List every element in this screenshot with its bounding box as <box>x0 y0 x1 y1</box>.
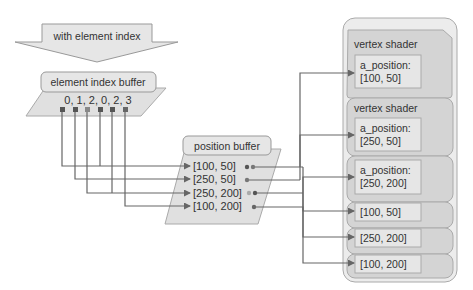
element-index-buffer: element index buffer 0, 1, 2, 0, 2, 3 <box>26 72 166 116</box>
attr-value: [100, 50] <box>360 72 401 84</box>
vertex-shader-4: [100, 50] <box>347 202 453 228</box>
vertex-shader-5: [250, 200] <box>347 228 453 254</box>
diagram-canvas: with element index element index buffer … <box>0 0 473 290</box>
vertex-shader-title: vertex shader <box>354 102 418 114</box>
attr-label: a_position: <box>360 59 411 71</box>
position-entry: [250, 200] <box>193 187 242 199</box>
arrow-label: with element index <box>53 30 142 42</box>
vertex-shader-3: a_position: [250, 200] <box>347 156 453 202</box>
position-entry: [250, 50] <box>193 173 236 185</box>
element-index-values: 0, 1, 2, 0, 2, 3 <box>64 94 131 106</box>
vertex-shader-2: vertex shader a_position: [250, 50] <box>347 98 453 156</box>
attr-label: a_position: <box>360 164 411 176</box>
vertex-shader-stack: vertex shader a_position: [100, 50] vert… <box>343 18 457 282</box>
attr-label: a_position: <box>360 122 411 134</box>
attr-value: [250, 200] <box>360 177 407 189</box>
vertex-shader-1: vertex shader a_position: [100, 50] <box>347 30 452 98</box>
attr-value: [250, 50] <box>360 135 401 147</box>
attr-value: [100, 50] <box>360 206 401 218</box>
index-connectors <box>62 112 190 206</box>
with-element-index-arrow: with element index <box>15 24 178 62</box>
vertex-shader-6: [100, 200] <box>347 254 453 278</box>
element-index-buffer-title: element index buffer <box>51 76 146 88</box>
position-buffer-title: position buffer <box>194 140 260 152</box>
attr-value: [250, 200] <box>360 232 407 244</box>
attr-value: [100, 200] <box>360 258 407 270</box>
position-entry: [100, 200] <box>193 200 242 212</box>
vertex-shader-title: vertex shader <box>354 38 418 50</box>
position-entry: [100, 50] <box>193 160 236 172</box>
